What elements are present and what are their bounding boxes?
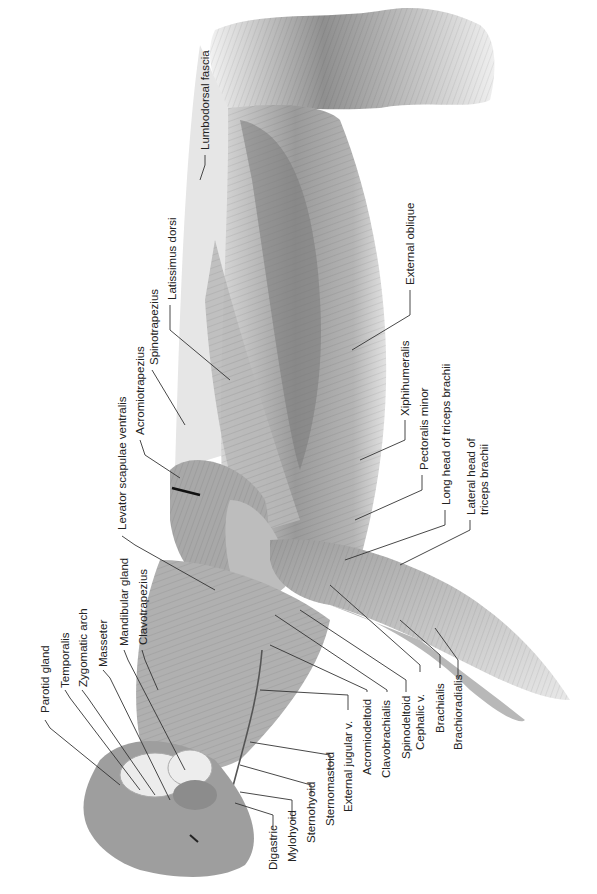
hindlimb-muscles (210, 8, 495, 109)
label-sternomastoid: Sternomastoid (324, 752, 336, 826)
label-acromiodeltoid: Acromiodeltoid (361, 699, 373, 775)
label-spinotrapezius: Spinotrapezius (148, 289, 160, 365)
label-brachialis: Brachialis (434, 683, 446, 733)
label-cephalic-v: Cephalic v. (414, 694, 426, 750)
label-acromiotrapezius: Acromiotrapezius (134, 346, 146, 435)
label-pectoralis-minor: Pectoralis minor (418, 387, 430, 470)
label-lateral-head-triceps-line2: triceps brachii (478, 444, 490, 515)
label-lateral-head-triceps-line1: Lateral head of (465, 437, 477, 515)
label-lumbodorsal-fascia: Lumbodorsal fascia (199, 50, 211, 150)
label-temporalis: Temporalis (59, 632, 71, 688)
label-sternohyoid: Sternohyoid (305, 782, 317, 843)
label-xiphihumeralis: Xiphihumeralis (399, 340, 411, 416)
anatomy-illustration: Lumbodorsal fascia External oblique Lati… (0, 0, 597, 894)
masseter-shape (173, 780, 217, 810)
label-latissimus-dorsi: Latissimus dorsi (166, 218, 178, 300)
label-clavotrapezius: Clavotrapezius (137, 569, 149, 645)
label-digastric: Digastric (267, 825, 279, 870)
label-mandibular-gland: Mandibular gland (118, 558, 130, 646)
label-levator-scapulae-ventralis: Levator scapulae ventralis (116, 396, 128, 530)
label-brachioradialis: Brachioradialis (452, 674, 464, 750)
label-long-head-triceps: Long head of triceps brachii (440, 364, 452, 505)
label-masseter: Masseter (97, 620, 109, 667)
label-mylohyoid: Mylohyoid (286, 810, 298, 862)
label-parotid-gland: Parotid gland (39, 645, 51, 713)
label-clavobrachialis: Clavobrachialis (380, 700, 392, 778)
label-external-jugular-v: External jugular v. (342, 721, 354, 812)
label-spinodeltoid: Spinodeltoid (400, 696, 412, 759)
label-zygomatic-arch: Zygomatic arch (77, 608, 89, 687)
label-external-oblique: External oblique (404, 203, 416, 285)
